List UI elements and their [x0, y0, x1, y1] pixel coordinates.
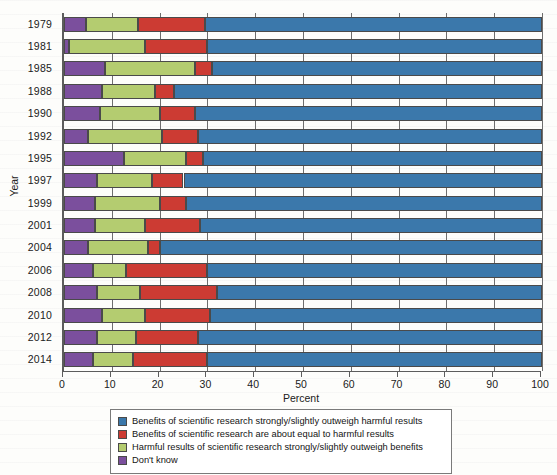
bar-segment[interactable] — [88, 129, 162, 144]
bar-segment[interactable] — [64, 285, 97, 300]
bar-segment[interactable] — [64, 218, 95, 233]
bar-segment[interactable] — [93, 352, 134, 367]
y-tick-label-1999: 1999 — [28, 196, 52, 211]
bar-segment[interactable] — [174, 84, 542, 99]
y-tick-label-1985: 1985 — [28, 61, 52, 76]
bar-segment[interactable] — [155, 84, 174, 99]
bar-segment[interactable] — [64, 330, 97, 345]
bar-segment[interactable] — [195, 106, 542, 121]
bar-segment[interactable] — [145, 39, 207, 54]
bar-segment[interactable] — [160, 240, 542, 255]
bar-segment[interactable] — [95, 218, 145, 233]
bar-row[interactable] — [64, 263, 540, 278]
bar-segment[interactable] — [64, 263, 93, 278]
bar-segment[interactable] — [145, 218, 200, 233]
bar-segment[interactable] — [64, 352, 93, 367]
bar-segment[interactable] — [86, 17, 139, 32]
bar-row[interactable] — [64, 240, 540, 255]
bar-segment[interactable] — [97, 285, 140, 300]
bar-row[interactable] — [64, 61, 540, 76]
bar-row[interactable] — [64, 218, 540, 233]
bar-segment[interactable] — [205, 17, 542, 32]
bar-segment[interactable] — [102, 308, 145, 323]
bar-segment[interactable] — [64, 240, 88, 255]
bar-segment[interactable] — [198, 330, 542, 345]
chart-legend: Benefits of scientific research strongly… — [110, 409, 452, 474]
bar-row[interactable] — [64, 285, 540, 300]
bar-segment[interactable] — [200, 218, 542, 233]
bar-row[interactable] — [64, 129, 540, 144]
legend-item[interactable]: Benefits of scientific research strongly… — [118, 415, 444, 428]
bar-segment[interactable] — [138, 17, 205, 32]
bar-segment[interactable] — [198, 129, 542, 144]
bar-row[interactable] — [64, 84, 540, 99]
bar-segment[interactable] — [97, 330, 135, 345]
stacked-bar-chart-figure: Year 19791981198519881990199219951997199… — [0, 0, 557, 475]
bar-segment[interactable] — [100, 106, 160, 121]
legend-item[interactable]: Harmful results of scientific research s… — [118, 441, 444, 454]
gridline-100 — [542, 13, 543, 371]
bar-row[interactable] — [64, 151, 540, 166]
bar-segment[interactable] — [95, 196, 160, 211]
bar-segment[interactable] — [136, 330, 198, 345]
bar-segment[interactable] — [97, 173, 152, 188]
legend-swatch-icon — [118, 417, 127, 426]
bar-segment[interactable] — [133, 352, 207, 367]
bar-segment[interactable] — [207, 39, 542, 54]
bar-row[interactable] — [64, 173, 540, 188]
x-tick-0 — [62, 371, 63, 377]
y-tick-label-2006: 2006 — [28, 263, 52, 278]
bar-segment[interactable] — [160, 106, 196, 121]
bar-segment[interactable] — [152, 173, 183, 188]
bar-segment[interactable] — [217, 285, 542, 300]
y-tick-label-1992: 1992 — [28, 129, 52, 144]
x-tick-label-100: 100 — [531, 378, 549, 390]
legend-item[interactable]: Benefits of scientific research are abou… — [118, 428, 444, 441]
bar-row[interactable] — [64, 196, 540, 211]
bar-segment[interactable] — [64, 151, 124, 166]
bar-segment[interactable] — [186, 196, 542, 211]
legend-item-label: Benefits of scientific research are abou… — [132, 429, 394, 440]
bar-segment[interactable] — [162, 129, 198, 144]
bar-segment[interactable] — [69, 39, 145, 54]
bar-segment[interactable] — [203, 151, 542, 166]
bar-segment[interactable] — [148, 240, 160, 255]
bar-segment[interactable] — [195, 61, 212, 76]
bar-segment[interactable] — [64, 129, 88, 144]
bar-segment[interactable] — [124, 151, 186, 166]
bar-segment[interactable] — [102, 84, 155, 99]
bar-row[interactable] — [64, 352, 540, 367]
bar-row[interactable] — [64, 17, 540, 32]
bar-segment[interactable] — [64, 17, 86, 32]
bar-segment[interactable] — [64, 106, 100, 121]
bar-segment[interactable] — [212, 61, 542, 76]
bar-segment[interactable] — [126, 263, 207, 278]
bar-segment[interactable] — [184, 173, 543, 188]
bar-row[interactable] — [64, 308, 540, 323]
bar-segment[interactable] — [105, 61, 196, 76]
x-tick-label-20: 20 — [152, 378, 164, 390]
bar-segment[interactable] — [93, 263, 126, 278]
bar-segment[interactable] — [64, 196, 95, 211]
bar-segment[interactable] — [145, 308, 210, 323]
bar-segment[interactable] — [207, 263, 542, 278]
y-tick-label-2004: 2004 — [28, 240, 52, 255]
bar-segment[interactable] — [64, 84, 102, 99]
bar-segment[interactable] — [140, 285, 216, 300]
x-tick-label-50: 50 — [295, 378, 307, 390]
bar-segment[interactable] — [186, 151, 203, 166]
bar-segment[interactable] — [64, 173, 97, 188]
bar-segment[interactable] — [160, 196, 186, 211]
bar-row[interactable] — [64, 330, 540, 345]
bar-segment[interactable] — [64, 308, 102, 323]
bar-segment[interactable] — [207, 352, 542, 367]
bar-segment[interactable] — [88, 240, 148, 255]
bar-segment[interactable] — [210, 308, 542, 323]
legend-swatch-icon — [118, 456, 127, 465]
bar-segment[interactable] — [64, 61, 105, 76]
y-tick-label-2012: 2012 — [28, 330, 52, 345]
x-tick-label-90: 90 — [486, 378, 498, 390]
bar-row[interactable] — [64, 106, 540, 121]
bar-row[interactable] — [64, 39, 540, 54]
legend-item[interactable]: Don't know — [118, 454, 444, 467]
